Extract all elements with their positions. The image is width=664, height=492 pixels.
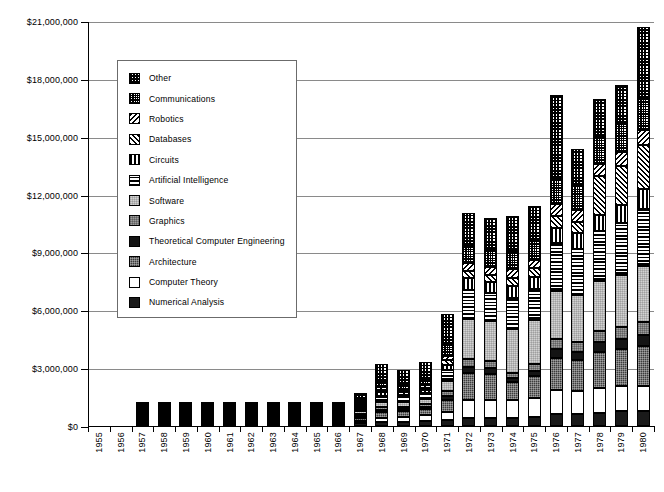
legend-swatch-icon: [129, 297, 140, 308]
bar-segment: [441, 370, 454, 381]
x-axis-tick-label: 1977: [573, 432, 583, 453]
x-axis-tick-label: 1979: [616, 432, 626, 453]
bar-segment: [615, 275, 628, 327]
legend-item-label: Computer Theory: [149, 277, 218, 287]
bar-segment: [136, 424, 149, 426]
bar-segment: [419, 421, 432, 426]
legend-item[interactable]: Computer Theory: [118, 272, 296, 292]
bar-segment: [332, 424, 345, 426]
bar-segment: [441, 400, 454, 412]
legend-swatch-icon: [129, 154, 140, 165]
y-axis: $0$3,000,000$6,000,000$9,000,000$12,000,…: [0, 0, 78, 492]
x-axis-tick-label: 1966: [333, 432, 343, 453]
bar-segment: [571, 352, 584, 360]
legend-item[interactable]: Graphics: [118, 211, 296, 231]
bar-stack: [375, 364, 388, 426]
bar-segment: [615, 327, 628, 339]
bar-segment: [593, 352, 606, 389]
y-axis-tick-label: $6,000,000: [32, 306, 78, 316]
bar-stack: [158, 421, 171, 426]
bar-segment: [615, 152, 628, 165]
legend-item[interactable]: Circuits: [118, 150, 296, 170]
bar-segment: [571, 391, 584, 414]
legend-item[interactable]: Software: [118, 190, 296, 210]
legend-item[interactable]: Artificial Intelligence: [118, 170, 296, 190]
bar-stack: [593, 99, 606, 426]
legend-item[interactable]: Databases: [118, 129, 296, 149]
bar-segment: [484, 400, 497, 417]
x-axis: 1955195619571958195919601961196219631964…: [88, 432, 654, 488]
x-axis-tick-label: 1969: [399, 432, 409, 453]
bar-segment: [637, 189, 650, 208]
bar-segment: [310, 424, 323, 426]
bar-segment: [637, 145, 650, 189]
bar-segment: [528, 417, 541, 426]
bar-segment: [571, 360, 584, 391]
bar-segment: [484, 275, 497, 283]
bar-segment: [506, 278, 519, 286]
bar-segment: [615, 124, 628, 152]
x-axis-tick-label: 1978: [595, 432, 605, 453]
legend-item-label: Databases: [149, 134, 191, 144]
legend-item[interactable]: Robotics: [118, 109, 296, 129]
bar-segment: [441, 420, 454, 426]
bar-segment: [528, 206, 541, 241]
x-axis-tick-label: 1957: [137, 432, 147, 453]
bar-segment: [419, 362, 432, 379]
legend-item-label: Architecture: [149, 257, 197, 267]
bar-segment: [637, 266, 650, 322]
legend-item[interactable]: Numerical Analysis: [118, 292, 296, 312]
x-axis-tick-label: 1958: [159, 432, 169, 453]
bar-segment: [462, 319, 475, 359]
bar-stack: [397, 367, 410, 426]
bar-stack: [223, 417, 236, 426]
bar-stack: [528, 206, 541, 426]
bar-segment: [179, 424, 192, 426]
x-axis-tick-label: 1976: [551, 432, 561, 453]
legend-swatch-icon: [129, 277, 140, 288]
y-axis-tick-label: $12,000,000: [27, 191, 78, 201]
legend-item[interactable]: Other: [118, 68, 296, 88]
legend-item[interactable]: Theoretical Computer Engineering: [118, 231, 296, 251]
bar-segment: [593, 388, 606, 412]
legend-swatch-icon: [129, 134, 140, 145]
bar-segment: [506, 298, 519, 329]
legend-swatch-icon: [129, 256, 140, 267]
chart-legend: OtherCommunicationsRoboticsDatabasesCirc…: [117, 60, 297, 318]
bar-segment: [462, 373, 475, 400]
bar-segment: [462, 246, 475, 263]
legend-item[interactable]: Architecture: [118, 252, 296, 272]
legend-swatch-icon: [129, 215, 140, 226]
x-axis-tick-label: 1961: [225, 432, 235, 453]
legend-item-label: Numerical Analysis: [149, 297, 224, 307]
bar-segment: [637, 346, 650, 386]
bar-segment: [637, 322, 650, 335]
bar-segment: [528, 376, 541, 398]
bar-segment: [528, 277, 541, 290]
bar-stack: [550, 94, 563, 426]
bar-segment: [462, 271, 475, 279]
x-axis-tick-label: 1973: [486, 432, 496, 453]
x-axis-tick-label: 1971: [442, 432, 452, 453]
bar-stack: [571, 141, 584, 426]
bar-segment: [637, 411, 650, 426]
legend-item-label: Other: [149, 73, 171, 83]
x-axis-tick-label: 1964: [290, 432, 300, 453]
bar-segment: [484, 250, 497, 267]
bar-segment: [550, 358, 563, 391]
legend-item[interactable]: Communications: [118, 88, 296, 108]
bar-segment: [484, 293, 497, 321]
bar-segment: [441, 381, 454, 392]
bar-segment: [615, 205, 628, 222]
bar-segment: [571, 249, 584, 295]
legend-item-label: Software: [149, 196, 184, 206]
x-axis-tick-label: 1974: [508, 432, 518, 453]
bar-segment: [267, 424, 280, 426]
bar-segment: [571, 295, 584, 342]
bar-segment: [593, 176, 606, 215]
bar-segment: [550, 95, 563, 180]
x-axis-tick-label: 1965: [312, 432, 322, 453]
bar-segment: [506, 251, 519, 269]
y-axis-tick-label: $3,000,000: [32, 364, 78, 374]
bar-segment: [637, 99, 650, 130]
